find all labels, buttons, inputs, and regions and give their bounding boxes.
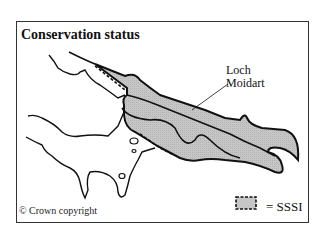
legend-swatch bbox=[236, 197, 256, 209]
loch-moidart-label: Loch Moidart bbox=[226, 64, 265, 90]
legend-text: = SSSI bbox=[266, 199, 303, 215]
sssi-area bbox=[95, 64, 298, 173]
copyright-text: © Crown copyright bbox=[19, 205, 97, 216]
label-line2: Moidart bbox=[226, 77, 265, 90]
